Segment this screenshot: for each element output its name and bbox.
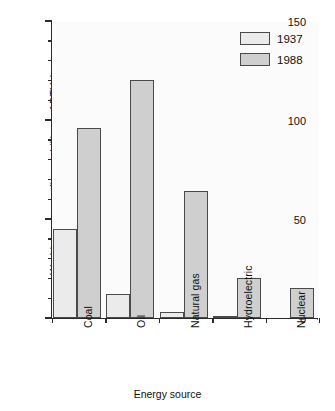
y-axis-minor-tick [48, 179, 53, 180]
y-axis-minor-tick [48, 80, 53, 81]
y-axis-tick-label: 50 [294, 214, 306, 226]
x-axis-category-label-coal: Coal [82, 306, 94, 328]
x-axis-tick [266, 318, 267, 323]
x-axis-tick [159, 318, 160, 323]
y-axis-minor-tick [48, 258, 53, 259]
x-axis-tick [212, 318, 213, 323]
x-axis-category-label-nuclear: Nuclear [295, 291, 307, 328]
chart-legend: 1937 1988 [240, 30, 303, 72]
bar-hydroelectric-1937 [213, 316, 237, 318]
y-axis-minor-tick [48, 60, 53, 61]
y-axis-minor-tick [48, 100, 53, 101]
y-axis-major-tick [45, 317, 52, 319]
bar-oil-1937 [106, 294, 130, 318]
y-axis-major-tick [45, 20, 52, 22]
x-axis-category-label-oil: Oil [135, 315, 147, 328]
y-axis-minor-tick [48, 159, 53, 160]
y-axis-minor-tick [48, 278, 53, 279]
y-axis-tick-label: 150 [288, 16, 306, 28]
x-axis-tick [105, 318, 106, 323]
y-axis-minor-tick [48, 40, 53, 41]
y-axis-minor-tick [48, 139, 53, 140]
x-axis-title: Energy source [0, 388, 335, 400]
bar-natural-gas-1937 [160, 312, 184, 318]
y-axis-minor-tick [48, 238, 53, 239]
x-axis-tick [319, 318, 320, 323]
bar-chart-figure: World energy use (in quadrillions of BTU… [0, 0, 335, 411]
x-axis-tick [52, 318, 53, 323]
bar-coal-1937 [53, 229, 77, 318]
y-axis-minor-tick [48, 298, 53, 299]
x-axis-category-label-natural-gas: Natural gas [189, 273, 201, 328]
legend-item-1988: 1988 [240, 51, 303, 68]
x-axis-category-label-hydroelectric: Hydroelectric [242, 265, 254, 328]
legend-label-1988: 1988 [277, 54, 303, 66]
y-axis-major-tick [45, 119, 52, 121]
legend-swatch-1988 [240, 53, 270, 66]
legend-swatch-1937 [240, 32, 270, 45]
y-axis-major-tick [45, 218, 52, 220]
y-axis-tick-label: 100 [288, 115, 306, 127]
bar-coal-1988 [77, 128, 101, 318]
legend-label-1937: 1937 [277, 33, 303, 45]
y-axis-minor-tick [48, 199, 53, 200]
legend-item-1937: 1937 [240, 30, 303, 47]
bar-oil-1988 [130, 80, 154, 318]
